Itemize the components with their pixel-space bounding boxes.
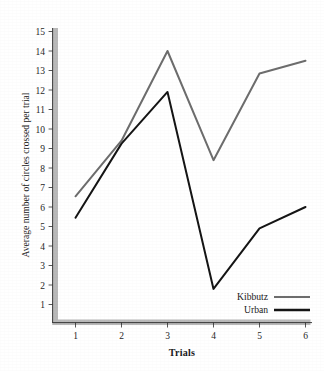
y-tick-label: 4 [40,242,45,252]
y-tick-label: 11 [36,105,45,115]
y-tick-label: 12 [36,86,46,96]
figure-container: 15 14 13 12 11 10 9 8 7 6 5 4 3 2 1 [0,0,324,371]
y-tick-label: 15 [36,27,46,37]
y-tick-label: 8 [40,164,45,174]
y-tick-label: 2 [40,281,45,291]
y-axis-title: Average number of circles crossed per tr… [20,92,31,257]
y-tick-label: 7 [40,183,45,193]
y-tick-label: 6 [40,203,45,213]
x-tick-label: 1 [73,331,78,341]
line-chart: 15 14 13 12 11 10 9 8 7 6 5 4 3 2 1 [0,0,324,371]
y-tick-label: 3 [40,261,45,271]
y-tick-label: 14 [36,47,46,57]
legend-label-kibbutz: Kibbutz [237,291,268,302]
x-tick-label: 4 [211,331,216,341]
y-tick-label: 1 [40,300,45,310]
y-tick-label: 13 [36,66,46,76]
y-tick-label: 10 [36,125,46,135]
legend-label-urban: Urban [244,304,268,315]
x-axis-title: Trials [169,347,196,358]
x-tick-label: 6 [303,331,308,341]
x-tick-label: 2 [119,331,124,341]
x-tick-label: 5 [257,331,262,341]
y-tick-label: 5 [40,222,45,232]
chart-background [0,0,324,371]
x-tick-label: 3 [165,331,170,341]
y-tick-label: 9 [40,144,45,154]
